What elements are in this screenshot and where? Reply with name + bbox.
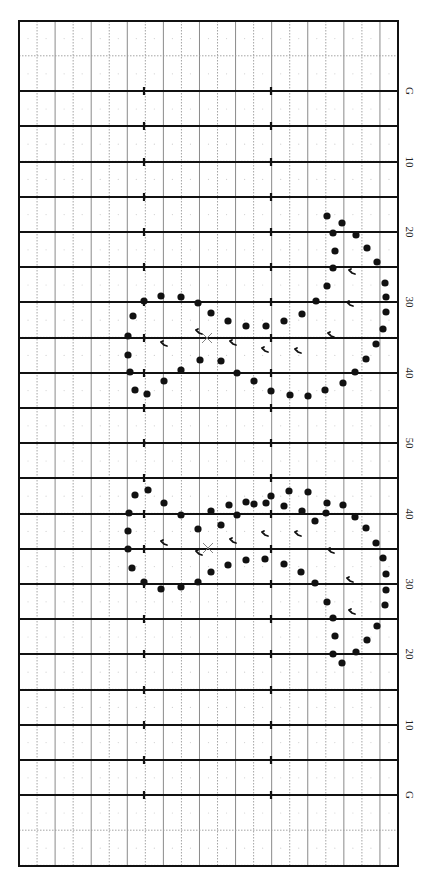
- grid-dot: [298, 496, 299, 497]
- performer-dot: [140, 578, 147, 585]
- grid-dot: [172, 460, 173, 461]
- grid-dot: [388, 777, 389, 778]
- grid-dot: [226, 496, 227, 497]
- grid-dot: [298, 566, 299, 567]
- performer-dot: [331, 247, 338, 254]
- grid-dot: [352, 214, 353, 215]
- performer-dot: [338, 219, 345, 226]
- grid-dot: [118, 531, 119, 532]
- grid-dot: [226, 812, 227, 813]
- grid-dot: [154, 320, 155, 321]
- performer-dot: [242, 556, 249, 563]
- direction-marker-icon: [161, 341, 167, 346]
- performer-dot: [329, 229, 336, 236]
- grid-dot: [262, 249, 263, 250]
- grid-dot: [370, 566, 371, 567]
- grid-dot: [45, 108, 46, 109]
- performer-dot: [280, 560, 287, 567]
- grid-dot: [226, 73, 227, 74]
- grid-dot: [136, 777, 137, 778]
- performer-dot: [160, 499, 167, 506]
- performer-dot: [140, 297, 147, 304]
- performer-dot: [372, 539, 379, 546]
- grid-dot: [208, 425, 209, 426]
- grid-dot: [100, 284, 101, 285]
- grid-dot: [172, 636, 173, 637]
- performer-dot: [323, 598, 330, 605]
- yard-label: 20: [404, 649, 416, 661]
- grid-dot: [388, 742, 389, 743]
- grid-dot: [190, 742, 191, 743]
- grid-dot: [100, 249, 101, 250]
- grid-dot: [334, 284, 335, 285]
- grid-dot: [280, 73, 281, 74]
- grid-dot: [154, 672, 155, 673]
- grid-dot: [118, 144, 119, 145]
- grid-dot: [82, 531, 83, 532]
- performer-dot: [242, 322, 249, 329]
- grid-dot: [154, 249, 155, 250]
- grid-dot: [388, 38, 389, 39]
- grid-dot: [262, 108, 263, 109]
- grid-dot: [334, 777, 335, 778]
- grid-dot: [118, 355, 119, 356]
- grid-dot: [334, 742, 335, 743]
- grid-dot: [352, 460, 353, 461]
- grid-dot: [190, 566, 191, 567]
- direction-marker-icon: [262, 347, 268, 352]
- yard-label: G: [404, 791, 416, 799]
- performer-dot: [352, 648, 359, 655]
- grid-dot: [100, 531, 101, 532]
- grid-dot: [82, 390, 83, 391]
- grid-dot: [64, 38, 65, 39]
- grid-dot: [64, 108, 65, 109]
- performer-dot: [129, 312, 136, 319]
- grid-dot: [298, 179, 299, 180]
- grid-dot: [190, 812, 191, 813]
- performer-dot: [311, 579, 318, 586]
- grid-dot: [352, 179, 353, 180]
- performer-dot: [339, 379, 346, 386]
- grid-dot: [64, 848, 65, 849]
- performer-dot: [177, 583, 184, 590]
- grid-dot: [154, 108, 155, 109]
- grid-dot: [172, 848, 173, 849]
- grid-dot: [27, 460, 28, 461]
- grid-dot: [388, 531, 389, 532]
- performer-dot: [351, 513, 358, 520]
- grid-dot: [82, 425, 83, 426]
- grid-dot: [45, 742, 46, 743]
- performer-dot: [286, 391, 293, 398]
- performer-dot: [217, 521, 224, 528]
- grid-dot: [370, 742, 371, 743]
- grid-dot: [316, 636, 317, 637]
- grid-dot: [370, 144, 371, 145]
- grid-dot: [172, 496, 173, 497]
- grid-dot: [82, 812, 83, 813]
- grid-dot: [27, 707, 28, 708]
- grid-dot: [388, 108, 389, 109]
- grid-dot: [388, 284, 389, 285]
- grid-dot: [154, 566, 155, 567]
- direction-marker-icon: [349, 609, 355, 614]
- direction-marker-icon: [161, 540, 167, 545]
- grid-dot: [226, 777, 227, 778]
- performer-dot: [225, 501, 232, 508]
- grid-dot: [82, 601, 83, 602]
- grid-dot: [136, 672, 137, 673]
- grid-dot: [136, 108, 137, 109]
- grid-dot: [262, 284, 263, 285]
- grid-dot: [370, 320, 371, 321]
- grid-dot: [262, 179, 263, 180]
- grid-dot: [136, 179, 137, 180]
- grid-dot: [45, 848, 46, 849]
- grid-dot: [316, 214, 317, 215]
- grid-dot: [154, 179, 155, 180]
- performer-dot: [194, 578, 201, 585]
- grid-dot: [244, 531, 245, 532]
- grid-dot: [118, 777, 119, 778]
- grid-dot: [370, 108, 371, 109]
- grid-dot: [262, 355, 263, 356]
- grid-dot: [370, 355, 371, 356]
- performer-dot: [250, 377, 257, 384]
